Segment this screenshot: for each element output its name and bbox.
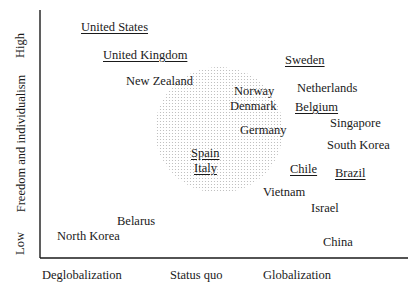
country-label-germany: Germany	[240, 123, 287, 137]
x-axis-deglobalization-label: Deglobalization	[42, 268, 122, 283]
country-label-italy: Italy	[194, 161, 217, 175]
country-label-israel: Israel	[311, 201, 339, 215]
globalization-freedom-diagram: High Freedom and individualism Low Deglo…	[0, 0, 418, 298]
country-label-spain: Spain	[191, 146, 219, 160]
country-label-sweden: Sweden	[285, 53, 325, 67]
country-label-chile: Chile	[290, 162, 317, 176]
y-axis-high-label: High	[13, 32, 28, 60]
country-label-belarus: Belarus	[117, 214, 155, 228]
y-axis-title: Freedom and individualism	[14, 69, 29, 219]
country-label-singapore: Singapore	[330, 116, 381, 130]
country-label-new-zealand: New Zealand	[126, 74, 193, 88]
country-label-belgium: Belgium	[295, 100, 338, 114]
country-label-brazil: Brazil	[335, 166, 366, 180]
country-label-norway: Norway	[234, 84, 274, 98]
x-axis-globalization-label: Globalization	[263, 268, 331, 283]
country-label-china: China	[323, 235, 353, 249]
country-label-united-kingdom: United Kingdom	[103, 48, 187, 62]
country-label-united-states: United States	[81, 20, 148, 34]
country-label-denmark: Denmark	[230, 99, 277, 113]
country-label-vietnam: Vietnam	[263, 185, 305, 199]
country-label-north-korea: North Korea	[57, 229, 120, 243]
country-label-netherlands: Netherlands	[297, 81, 357, 95]
y-axis-low-label: Low	[13, 230, 28, 258]
x-axis-status-quo-label: Status quo	[170, 268, 222, 283]
country-label-south-korea: South Korea	[327, 138, 390, 152]
